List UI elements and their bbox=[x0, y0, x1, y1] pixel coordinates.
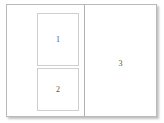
region-box-2[interactable]: 2 bbox=[37, 68, 79, 111]
left-pane: 1 2 bbox=[7, 5, 85, 116]
region-box-1[interactable]: 1 bbox=[37, 13, 79, 66]
region-3-label-wrap: 3 bbox=[85, 52, 156, 70]
region-2-label: 2 bbox=[56, 86, 60, 94]
region-3-label: 3 bbox=[119, 59, 123, 68]
layout-frame: 1 2 3 bbox=[6, 4, 157, 117]
layout-split: 1 2 3 bbox=[7, 5, 156, 116]
screenshot-root: 1 2 3 bbox=[0, 0, 164, 123]
right-pane[interactable]: 3 bbox=[85, 5, 156, 116]
region-1-label: 1 bbox=[56, 36, 60, 44]
